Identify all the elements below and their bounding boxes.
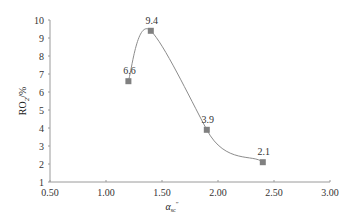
y-tick-label: 2 — [39, 159, 44, 170]
x-tick-label: 3.00 — [321, 187, 339, 198]
square-marker — [125, 78, 131, 84]
data-labels: 6.69.43.92.1 — [123, 15, 270, 157]
data-curve — [128, 29, 262, 163]
y-tick-label: 7 — [39, 69, 44, 80]
data-label: 3.9 — [202, 114, 215, 125]
x-tick-label: 2.50 — [265, 187, 283, 198]
y-axis-ticks: 12345678910 — [34, 15, 50, 188]
y-tick-label: 6 — [39, 87, 44, 98]
y-tick-label: 8 — [39, 51, 44, 62]
y-tick-label: 5 — [39, 105, 44, 116]
y-axis-title: RO2/% — [17, 87, 31, 116]
y-tick-label: 1 — [39, 177, 44, 188]
square-marker — [260, 159, 266, 165]
axes — [50, 20, 330, 182]
data-label: 2.1 — [258, 146, 271, 157]
x-axis-ticks: 0.501.001.502.002.503.00 — [41, 180, 339, 198]
data-markers — [125, 28, 265, 165]
x-tick-label: 1.00 — [97, 187, 115, 198]
y-tick-label: 9 — [39, 33, 44, 44]
data-label: 9.4 — [146, 15, 159, 26]
data-label: 6.6 — [123, 65, 136, 76]
y-tick-label: 3 — [39, 141, 44, 152]
square-marker — [148, 28, 154, 34]
x-tick-label: 2.00 — [209, 187, 227, 198]
y-tick-label: 10 — [34, 15, 44, 26]
y-tick-label: 4 — [39, 123, 44, 134]
x-tick-label: 1.50 — [153, 187, 171, 198]
x-tick-label: 0.50 — [41, 187, 59, 198]
square-marker — [204, 127, 210, 133]
x-axis-title: αsc″ — [165, 200, 178, 213]
line-chart: 12345678910 0.501.001.502.002.503.00 6.6… — [0, 0, 358, 223]
